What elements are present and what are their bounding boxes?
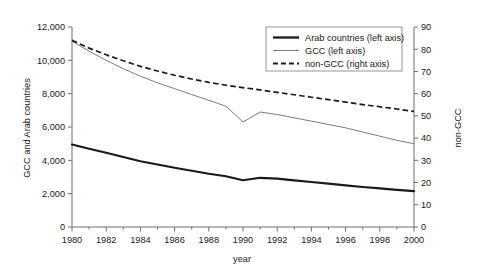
- right-axis-tick-labels: 0102030405060708090: [421, 22, 431, 232]
- left-tick-label: 12,000: [37, 22, 65, 32]
- x-tick-label: 2000: [404, 235, 424, 245]
- x-tick-label: 1990: [233, 235, 253, 245]
- right-tick-label: 50: [421, 111, 431, 121]
- legend-label-arab-countries: Arab countries (left axis): [305, 33, 404, 43]
- right-tick-label: 40: [421, 133, 431, 143]
- x-tick-label: 1992: [267, 235, 287, 245]
- x-tick-label: 1996: [335, 235, 355, 245]
- y-axis-title: GCC and Arab countries: [22, 78, 32, 178]
- right-tick-label: 80: [421, 45, 431, 55]
- left-axis-ticks: [68, 27, 72, 227]
- left-axis-tick-labels: 02,0004,0006,0008,00010,00012,000: [37, 22, 65, 232]
- left-tick-label: 10,000: [37, 56, 65, 66]
- x-axis-tick-labels: 1980198219841986198819901992199419961998…: [62, 235, 424, 245]
- x-tick-label: 1998: [370, 235, 390, 245]
- right-tick-label: 0: [421, 222, 426, 232]
- x-axis-ticks: [72, 227, 414, 232]
- chart-legend: Arab countries (left axis) GCC (left axi…: [266, 27, 404, 71]
- x-axis-title: year: [233, 254, 251, 264]
- left-tick-label: 8,000: [42, 89, 65, 99]
- y2-axis-title: non-GCC: [453, 108, 463, 147]
- series-line-arab-countries: [72, 145, 414, 192]
- left-tick-label: 2,000: [42, 189, 65, 199]
- left-tick-label: 0: [60, 222, 65, 232]
- left-tick-label: 4,000: [42, 156, 65, 166]
- right-tick-label: 90: [421, 22, 431, 32]
- right-axis-ticks: [414, 27, 418, 227]
- x-tick-label: 1984: [130, 235, 150, 245]
- chart-container: 02,0004,0006,0008,00010,00012,000 010203…: [0, 0, 480, 268]
- x-tick-label: 1994: [301, 235, 321, 245]
- x-tick-label: 1982: [96, 235, 116, 245]
- right-tick-label: 10: [421, 200, 431, 210]
- left-tick-label: 6,000: [42, 122, 65, 132]
- right-tick-label: 70: [421, 67, 431, 77]
- x-tick-label: 1988: [199, 235, 219, 245]
- right-tick-label: 20: [421, 178, 431, 188]
- right-tick-label: 30: [421, 156, 431, 166]
- x-tick-label: 1980: [62, 235, 82, 245]
- right-tick-label: 60: [421, 89, 431, 99]
- line-chart: 02,0004,0006,0008,00010,00012,000 010203…: [0, 0, 480, 268]
- legend-label-gcc: GCC (left axis): [305, 46, 365, 56]
- legend-label-non-gcc: non-GCC (right axis): [305, 59, 389, 69]
- x-tick-label: 1986: [164, 235, 184, 245]
